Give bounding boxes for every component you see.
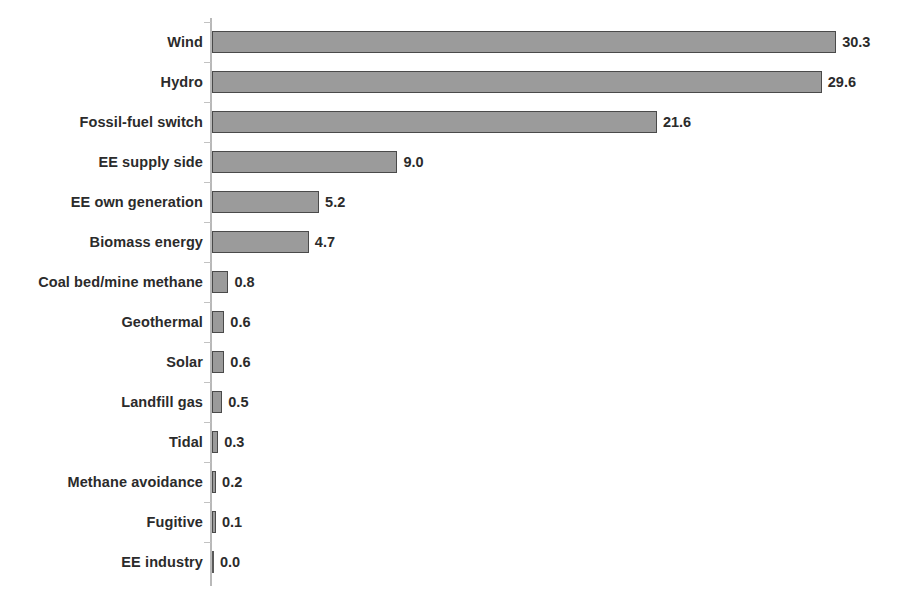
bar-and-value: 4.7	[212, 231, 335, 253]
axis-tick	[204, 62, 211, 63]
bar-and-value: 9.0	[212, 151, 424, 173]
axis-tick	[204, 502, 211, 503]
value-label: 5.2	[325, 191, 345, 213]
category-label: Hydro	[0, 74, 203, 90]
category-label: EE industry	[0, 554, 203, 570]
bar-row: Fossil-fuel switch21.6	[0, 102, 897, 142]
bar-row: Fugitive0.1	[0, 502, 897, 542]
value-label: 0.2	[222, 471, 242, 493]
axis-tick	[204, 222, 211, 223]
category-label: Geothermal	[0, 314, 203, 330]
axis-tick	[204, 542, 211, 543]
bar	[212, 431, 218, 453]
value-label: 0.6	[230, 351, 250, 373]
axis-tick	[204, 422, 211, 423]
bar-row: Geothermal0.6	[0, 302, 897, 342]
bar	[212, 551, 214, 573]
value-label: 21.6	[663, 111, 691, 133]
value-label: 0.6	[230, 311, 250, 333]
axis-tick	[204, 382, 211, 383]
axis-tick	[204, 302, 211, 303]
value-label: 0.5	[228, 391, 248, 413]
bar-row: EE supply side9.0	[0, 142, 897, 182]
axis-tick	[204, 142, 211, 143]
bar-row: Solar0.6	[0, 342, 897, 382]
category-label: Solar	[0, 354, 203, 370]
value-label: 9.0	[403, 151, 423, 173]
axis-tick	[204, 462, 211, 463]
bar-row: Biomass energy4.7	[0, 222, 897, 262]
bar-row: Tidal0.3	[0, 422, 897, 462]
category-label: Fossil-fuel switch	[0, 114, 203, 130]
bar	[212, 111, 657, 133]
value-label: 0.1	[222, 511, 242, 533]
axis-tick	[204, 342, 211, 343]
bar	[212, 191, 319, 213]
bar	[212, 511, 216, 533]
bar-and-value: 0.0	[212, 551, 240, 573]
category-label: Coal bed/mine methane	[0, 274, 203, 290]
bar-rows-container: Wind30.3Hydro29.6Fossil-fuel switch21.6E…	[0, 22, 897, 582]
bar-row: Landfill gas0.5	[0, 382, 897, 422]
category-label: EE own generation	[0, 194, 203, 210]
value-label: 0.3	[224, 431, 244, 453]
bar-and-value: 0.3	[212, 431, 244, 453]
value-label: 0.8	[234, 271, 254, 293]
category-label: Methane avoidance	[0, 474, 203, 490]
bar	[212, 231, 309, 253]
axis-tick	[204, 262, 211, 263]
bar-and-value: 0.8	[212, 271, 255, 293]
axis-tick	[204, 182, 211, 183]
value-label: 29.6	[828, 71, 856, 93]
category-label: Fugitive	[0, 514, 203, 530]
bar	[212, 151, 397, 173]
bar	[212, 471, 216, 493]
bar-row: Wind30.3	[0, 22, 897, 62]
bar	[212, 391, 222, 413]
bar-and-value: 0.6	[212, 351, 251, 373]
bar-and-value: 0.6	[212, 311, 251, 333]
category-label: EE supply side	[0, 154, 203, 170]
bar-row: EE industry0.0	[0, 542, 897, 582]
bar-and-value: 0.1	[212, 511, 242, 533]
value-label: 4.7	[315, 231, 335, 253]
bar-and-value: 0.5	[212, 391, 248, 413]
bar-and-value: 5.2	[212, 191, 345, 213]
bar-and-value: 0.2	[212, 471, 242, 493]
axis-tick	[204, 22, 211, 23]
bar-and-value: 29.6	[212, 71, 856, 93]
value-label: 30.3	[842, 31, 870, 53]
category-label: Landfill gas	[0, 394, 203, 410]
bar-row: Hydro29.6	[0, 62, 897, 102]
bar	[212, 351, 224, 373]
axis-tick	[204, 102, 211, 103]
category-label: Wind	[0, 34, 203, 50]
bar-row: EE own generation5.2	[0, 182, 897, 222]
bar-row: Coal bed/mine methane0.8	[0, 262, 897, 302]
bar-and-value: 30.3	[212, 31, 870, 53]
bar-and-value: 21.6	[212, 111, 691, 133]
value-label: 0.0	[220, 551, 240, 573]
bar	[212, 31, 836, 53]
category-label: Biomass energy	[0, 234, 203, 250]
bar	[212, 271, 228, 293]
bar-row: Methane avoidance0.2	[0, 462, 897, 502]
category-label: Tidal	[0, 434, 203, 450]
bar	[212, 71, 822, 93]
bar	[212, 311, 224, 333]
horizontal-bar-chart: Wind30.3Hydro29.6Fossil-fuel switch21.6E…	[0, 0, 897, 616]
